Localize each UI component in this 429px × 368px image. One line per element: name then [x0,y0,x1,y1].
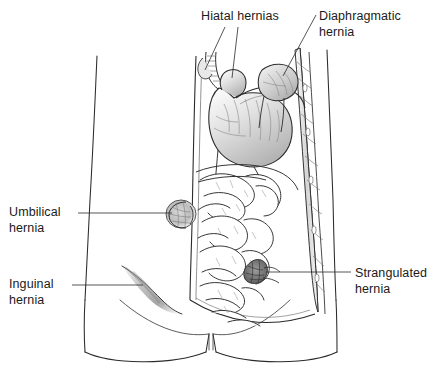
label-strangulated-line-1: Strangulated [355,266,427,280]
label-diaphragmatic-line-2: hernia [319,25,354,39]
thigh-left [85,334,209,362]
inguinal-hernia-swelling [120,264,182,314]
label-strangulated-line-2: hernia [355,282,390,296]
label-inguinal-line-1: Inguinal [9,277,54,291]
strangulated-hernia-knot [244,260,280,284]
label-diaphragmatic-line-1: Diaphragmatic [319,9,401,23]
leader-hiatal-a [205,27,225,70]
small-intestine-coils [198,174,281,326]
umbilical-hernia-bulge [166,200,196,228]
thigh-right [213,334,337,362]
hernia-anatomical-illustration [0,0,429,368]
label-umbilical-line-2: hernia [9,221,44,235]
label-strangulated-hernia: Strangulatedhernia [355,266,427,297]
label-umbilical-line-1: Umbilical [9,205,61,219]
groin-crease [120,300,290,350]
label-inguinal-hernia: Inguinalhernia [9,277,54,308]
label-hiatal-hernias: Hiatal hernias [201,9,279,25]
label-inguinal-line-2: hernia [9,293,44,307]
label-umbilical-hernia: Umbilicalhernia [9,205,61,236]
label-diaphragmatic-hernia: Diaphragmatichernia [319,9,401,40]
